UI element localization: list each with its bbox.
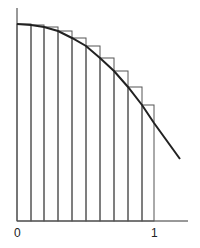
rectangle	[72, 38, 86, 221]
rectangle	[114, 71, 128, 221]
rectangle	[44, 27, 58, 221]
curve	[17, 24, 180, 159]
rectangle	[100, 58, 114, 221]
x-label-1: 1	[151, 226, 158, 240]
rectangle	[86, 46, 100, 221]
rectangle	[142, 105, 154, 221]
rectangle	[128, 87, 142, 221]
rectangle	[17, 24, 31, 221]
rectangle	[58, 31, 72, 221]
riemann-sum-diagram	[0, 0, 200, 248]
x-label-0: 0	[14, 226, 21, 240]
rectangles	[17, 24, 154, 221]
rectangle	[31, 25, 44, 221]
